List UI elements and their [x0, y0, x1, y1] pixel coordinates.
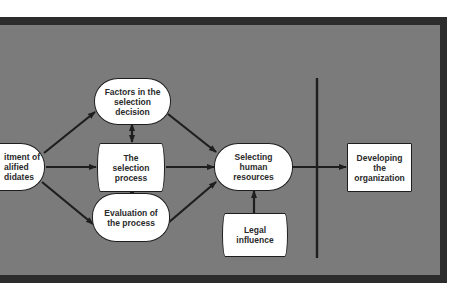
arrow-recruitment-evaluation: [42, 182, 93, 224]
arrow-evaluation-selecting: [168, 182, 216, 223]
arrow-recruitment-factors: [44, 112, 95, 153]
node-developing: Developing the organization: [347, 143, 412, 192]
node-recruitment: itment of alified didates: [0, 143, 45, 191]
node-legal: Legal influence: [222, 213, 288, 257]
node-selecting: Selecting human resources: [214, 143, 293, 191]
node-developing-label: Developing the organization: [354, 153, 405, 183]
node-recruitment-label: itment of alified didates: [4, 152, 40, 182]
node-factors: Factors in the selection decision: [94, 78, 171, 125]
node-selection-process: The selection process: [97, 143, 165, 192]
node-legal-label: Legal influence: [236, 225, 273, 245]
selection-process-diagram: itment of alified didates Factors in the…: [0, 0, 472, 301]
node-evaluation: Evaluation of the process: [92, 193, 170, 242]
arrow-factors-selecting: [168, 114, 216, 152]
node-evaluation-label: Evaluation of the process: [104, 208, 157, 228]
node-selection-process-label: The selection process: [113, 153, 150, 183]
node-selecting-label: Selecting human resources: [233, 152, 274, 182]
node-factors-label: Factors in the selection decision: [105, 87, 161, 117]
